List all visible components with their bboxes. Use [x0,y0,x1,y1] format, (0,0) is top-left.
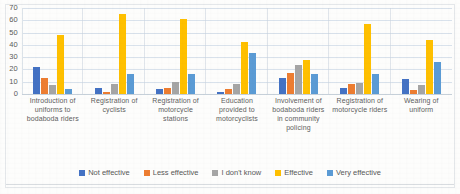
bar [119,14,126,94]
bar-group [83,8,144,94]
bar [57,35,64,94]
y-axis: 010203040506070 [0,8,20,94]
bar [418,85,425,94]
bar-group [145,8,206,94]
y-axis-tick-label: 60 [9,16,18,24]
bar [172,82,179,94]
bar-group [268,8,329,94]
bar [364,24,371,94]
bar-group [391,8,452,94]
bars-layer [22,8,452,94]
bar [41,78,48,94]
legend-label: Not effective [88,169,130,177]
chart-legend: Not effectiveLess effectiveI don't knowE… [0,166,460,180]
category-label: Wearing of uniform [391,96,452,154]
legend-swatch [212,170,218,176]
gridline [22,94,452,95]
bar [225,89,232,94]
category-labels: Introduction of uniforms to bodaboda rid… [22,96,452,154]
legend-label: Effective [284,169,313,177]
bar [233,84,240,94]
bar [356,83,363,94]
bar [249,53,256,94]
bar [279,78,286,94]
bar [311,74,318,94]
bar [65,89,72,94]
bar [410,90,417,94]
bar [95,88,102,94]
category-label: Registration of motorcycle stations [145,96,206,154]
bar [340,88,347,94]
category-label: Introduction of uniforms to bodaboda rid… [22,96,83,154]
bar [348,84,355,94]
bar [426,40,433,94]
bar [434,62,441,94]
bar [241,42,248,94]
bar [303,60,310,94]
bar [188,74,195,94]
legend-label: Less effective [153,169,199,177]
category-label: Registration of motorcycle riders [329,96,390,154]
bar [111,84,118,94]
bar [372,74,379,94]
bar [180,19,187,94]
legend-item[interactable]: Very effective [327,169,381,177]
category-label: Involvement of bodaboda riders in commun… [268,96,329,154]
legend-label: I don't know [221,169,261,177]
legend-swatch [275,170,281,176]
category-label: Education provided to motorcyclists [206,96,267,154]
y-axis-tick-label: 10 [9,78,18,86]
bar-chart: 010203040506070 Introduction of uniforms… [0,0,460,194]
y-axis-tick-label: 20 [9,65,18,73]
legend-divider [6,184,454,185]
y-axis-tick-label: 30 [9,53,18,61]
bar [127,74,134,94]
bar [49,85,56,94]
bar-group [22,8,83,94]
bar-group [206,8,267,94]
legend-item[interactable]: I don't know [212,169,261,177]
bar [33,67,40,94]
legend-item[interactable]: Effective [275,169,313,177]
legend-label: Very effective [336,169,381,177]
category-label: Registration of cyclists [83,96,144,154]
bar [164,88,171,94]
y-axis-tick-label: 40 [9,41,18,49]
legend-swatch [79,170,85,176]
plot-area [22,8,452,94]
bar [217,92,224,94]
y-axis-tick-label: 50 [9,29,18,37]
bar [103,92,110,94]
bar [295,65,302,94]
bar [402,79,409,94]
legend-swatch [144,170,150,176]
y-axis-tick-label: 70 [9,4,18,12]
legend-swatch [327,170,333,176]
legend-item[interactable]: Less effective [144,169,199,177]
legend-item[interactable]: Not effective [79,169,130,177]
bar [156,89,163,94]
bar [287,73,294,94]
y-axis-tick-label: 0 [14,90,18,98]
bar-group [329,8,390,94]
